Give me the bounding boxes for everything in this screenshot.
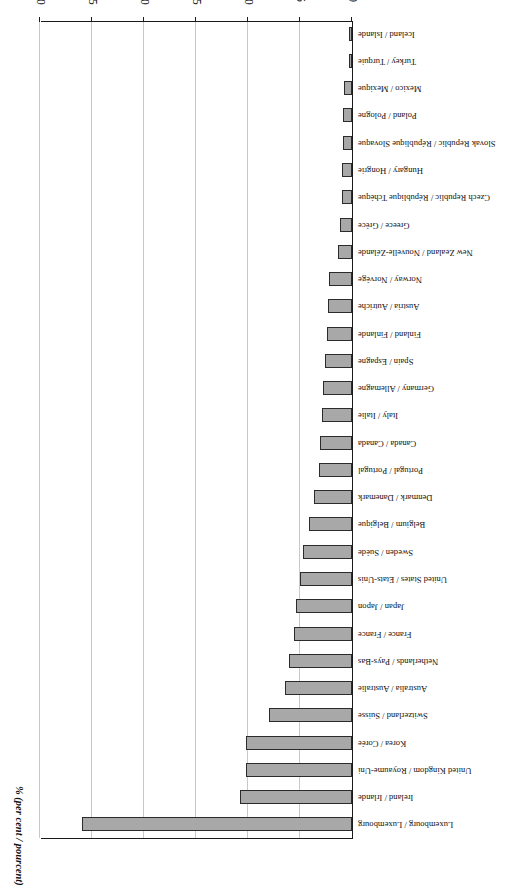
bar-row: Turkey / Turquie bbox=[40, 47, 352, 74]
bar-row: France / France bbox=[40, 620, 352, 647]
bar bbox=[325, 354, 352, 368]
bar-row: Switzerland / Suisse bbox=[40, 702, 352, 729]
bar bbox=[82, 817, 352, 831]
category-label: Sweden / Suède bbox=[358, 548, 413, 558]
bar-row: Poland / Pologne bbox=[40, 102, 352, 129]
category-label: Japan / Japon bbox=[358, 602, 404, 612]
category-label: Canada / Canada bbox=[358, 439, 416, 449]
axis-tick-label: 25 bbox=[87, 0, 99, 12]
bar bbox=[328, 299, 352, 313]
category-label: Norway / Norvège bbox=[358, 275, 422, 285]
category-label: France / France bbox=[358, 630, 411, 640]
bar-row: Czech Republic / République Tchèque bbox=[40, 184, 352, 211]
bar-row: Australia / Australie bbox=[40, 674, 352, 701]
bar bbox=[309, 517, 352, 531]
bar-row: Korea / Corée bbox=[40, 729, 352, 756]
bar bbox=[285, 681, 352, 695]
bar-row: Mexico / Mexique bbox=[40, 75, 352, 102]
bar bbox=[342, 190, 352, 204]
category-label: Netherlands / Pays-Bas bbox=[358, 657, 438, 667]
category-label: Australia / Australie bbox=[358, 684, 427, 694]
axis-tick-label: 5 bbox=[295, 0, 307, 12]
bar-row: Hungary / Hongrie bbox=[40, 156, 352, 183]
plot-area: Luxembourg / LuxembourgIreland / Irlande… bbox=[41, 21, 353, 839]
bar-row: New Zealand / Nouvelle-Zélande bbox=[40, 238, 352, 265]
category-label: Italy / Italie bbox=[358, 411, 398, 421]
bar bbox=[289, 654, 352, 668]
bar bbox=[246, 763, 352, 777]
bar bbox=[240, 790, 352, 804]
category-label: United States / Etats-Unis bbox=[358, 575, 447, 585]
bar-row: United Kingdom / Royaume-Uni bbox=[40, 756, 352, 783]
axis-tick-label: 10 bbox=[243, 0, 255, 12]
bar-row: Netherlands / Pays-Bas bbox=[40, 647, 352, 674]
axis-tick-label: 20 bbox=[139, 0, 151, 12]
bar bbox=[343, 136, 352, 150]
bar-row: Spain / Espagne bbox=[40, 347, 352, 374]
bar bbox=[338, 245, 352, 259]
bar bbox=[343, 108, 352, 122]
bar bbox=[303, 545, 352, 559]
bar-row: Canada / Canada bbox=[40, 429, 352, 456]
rotated-figure: Luxembourg / LuxembourgIreland / Irlande… bbox=[0, 0, 525, 886]
bar-row: Belgium / Belgique bbox=[40, 511, 352, 538]
bar-row: Denmark / Danemark bbox=[40, 484, 352, 511]
bar-row: Austria / Autriche bbox=[40, 293, 352, 320]
bar bbox=[327, 327, 352, 341]
category-label: United Kingdom / Royaume-Uni bbox=[358, 766, 471, 776]
bar bbox=[340, 218, 352, 232]
bar-row: Iceland / Islande bbox=[40, 20, 352, 47]
bar-row: Japan / Japon bbox=[40, 593, 352, 620]
category-label: Hungary / Hongrie bbox=[358, 166, 423, 176]
bar bbox=[349, 54, 352, 68]
bar bbox=[294, 627, 352, 641]
category-label: Greece / Grèce bbox=[358, 221, 410, 231]
bar bbox=[319, 463, 352, 477]
axis-tick-label: 0 bbox=[347, 0, 359, 12]
bar bbox=[246, 736, 352, 750]
category-label: Austria / Autriche bbox=[358, 302, 420, 312]
bar bbox=[320, 436, 352, 450]
category-label: Iceland / Islande bbox=[358, 30, 415, 40]
category-label: Denmark / Danemark bbox=[358, 493, 432, 503]
category-label: Slovak Republic / République Slovaque bbox=[358, 139, 495, 149]
bar bbox=[300, 572, 352, 586]
bar-row: Germany / Allemagne bbox=[40, 374, 352, 401]
category-label: Mexico / Mexique bbox=[358, 84, 421, 94]
bar-row: Sweden / Suède bbox=[40, 538, 352, 565]
bar-row: Portugal / Portugal bbox=[40, 456, 352, 483]
category-label: Belgium / Belgique bbox=[358, 520, 425, 530]
category-label: Korea / Corée bbox=[358, 739, 406, 749]
axis-title: % (per cent / pourcent) bbox=[14, 786, 25, 886]
category-label: Luxembourg / Luxembourg bbox=[358, 820, 453, 830]
category-label: Switzerland / Suisse bbox=[358, 711, 428, 721]
category-label: Czech Republic / République Tchèque bbox=[358, 193, 490, 203]
bar-row: United States / Etats-Unis bbox=[40, 565, 352, 592]
axis-tick-label: 30 bbox=[35, 0, 47, 12]
category-label: Portugal / Portugal bbox=[358, 466, 423, 476]
bar-row: Finland / Finlande bbox=[40, 320, 352, 347]
bar bbox=[296, 599, 352, 613]
bar-row: Luxembourg / Luxembourg bbox=[40, 811, 352, 838]
category-label: Ireland / Irlande bbox=[358, 793, 413, 803]
bar bbox=[349, 27, 352, 41]
bar bbox=[323, 381, 352, 395]
bar bbox=[329, 272, 352, 286]
bar-row: Norway / Norvège bbox=[40, 265, 352, 292]
category-label: Finland / Finlande bbox=[358, 330, 421, 340]
category-label: Spain / Espagne bbox=[358, 357, 413, 367]
bar bbox=[342, 163, 352, 177]
bar-chart: Luxembourg / LuxembourgIreland / Irlande… bbox=[0, 0, 525, 886]
category-label: Germany / Allemagne bbox=[358, 384, 434, 394]
bar bbox=[344, 81, 352, 95]
axis-tick-label: 15 bbox=[191, 0, 203, 12]
bar-row: Italy / Italie bbox=[40, 402, 352, 429]
category-label: New Zealand / Nouvelle-Zélande bbox=[358, 248, 473, 258]
bar-row: Ireland / Irlande bbox=[40, 783, 352, 810]
category-label: Poland / Pologne bbox=[358, 111, 417, 121]
bar bbox=[269, 708, 352, 722]
bar-row: Greece / Grèce bbox=[40, 211, 352, 238]
bar bbox=[322, 408, 352, 422]
category-label: Turkey / Turquie bbox=[358, 57, 416, 67]
bar-row: Slovak Republic / République Slovaque bbox=[40, 129, 352, 156]
